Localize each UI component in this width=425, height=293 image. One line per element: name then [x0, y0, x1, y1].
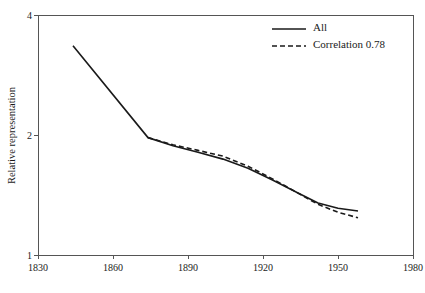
x-tick-label: 1980	[403, 262, 423, 273]
series-line	[73, 46, 358, 211]
legend-label: Correlation 0.78	[313, 38, 385, 50]
y-tick-label: 4	[12, 10, 32, 21]
legend-swatch-solid-icon	[272, 21, 306, 33]
y-tick-label: 1	[12, 250, 32, 261]
legend-item: All	[272, 18, 412, 35]
x-tick-label: 1830	[28, 262, 48, 273]
legend-item: Correlation 0.78	[272, 35, 412, 52]
x-tick-label: 1920	[253, 262, 273, 273]
chart-figure: Relative representation 1830186018901920…	[0, 0, 425, 293]
x-tick-label: 1950	[328, 262, 348, 273]
legend-swatch-dashed-icon	[272, 38, 306, 50]
chart-legend: AllCorrelation 0.78	[272, 18, 412, 52]
x-tick-label: 1890	[178, 262, 198, 273]
y-tick-label: 2	[12, 130, 32, 141]
x-tick-label: 1860	[103, 262, 123, 273]
series-lines	[73, 46, 358, 218]
legend-label: All	[313, 21, 327, 33]
